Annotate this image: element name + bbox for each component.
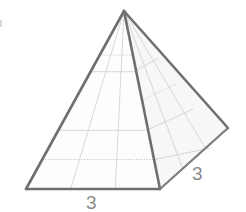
scan-artifact [0, 20, 2, 27]
dimension-label-right: 3 [192, 163, 203, 184]
square-pyramid-drawing: 3 3 [0, 0, 246, 212]
dimension-label-bottom: 3 [86, 192, 97, 212]
pyramid-figure-container: 3 3 [0, 0, 246, 212]
